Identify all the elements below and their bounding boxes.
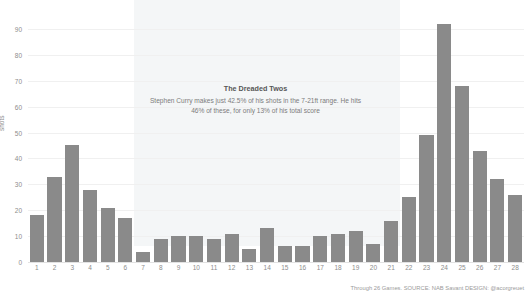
- bar[interactable]: [83, 190, 97, 263]
- y-tick-30: 30: [15, 181, 22, 188]
- gridline-0: [28, 262, 524, 263]
- bar[interactable]: [384, 221, 398, 262]
- x-tick-17: 17: [311, 264, 329, 271]
- bar-slot: [418, 16, 436, 262]
- bar-slot: [311, 16, 329, 262]
- bar[interactable]: [47, 177, 61, 262]
- y-axis-tick-labels: 0102030405060708090: [0, 16, 24, 262]
- x-tick-14: 14: [258, 264, 276, 271]
- bar-slot: [117, 16, 135, 262]
- bar[interactable]: [331, 234, 345, 262]
- y-tick-10: 10: [15, 233, 22, 240]
- bar-slot: [205, 16, 223, 262]
- x-tick-6: 6: [117, 264, 135, 271]
- x-tick-23: 23: [418, 264, 436, 271]
- x-tick-24: 24: [435, 264, 453, 271]
- x-tick-26: 26: [471, 264, 489, 271]
- x-tick-9: 9: [170, 264, 188, 271]
- bar[interactable]: [242, 249, 256, 262]
- bar[interactable]: [30, 215, 44, 262]
- chart-footer: Through 26 Games. SOURCE: NAB Savant DES…: [351, 285, 524, 291]
- bar[interactable]: [101, 208, 115, 262]
- x-tick-27: 27: [489, 264, 507, 271]
- y-tick-20: 20: [15, 207, 22, 214]
- y-tick-90: 90: [15, 25, 22, 32]
- bar-slot: [223, 16, 241, 262]
- annotation-title: The Dreaded Twos: [133, 84, 378, 93]
- bar-slot: [134, 16, 152, 262]
- x-tick-13: 13: [241, 264, 259, 271]
- y-tick-70: 70: [15, 77, 22, 84]
- bar-slot: [329, 16, 347, 262]
- bar-slot: [46, 16, 64, 262]
- plot-area: [28, 16, 524, 262]
- bar[interactable]: [118, 218, 132, 262]
- bar-slot: [400, 16, 418, 262]
- bar-slot: [471, 16, 489, 262]
- bar-slot: [506, 16, 524, 262]
- bar-slot: [63, 16, 81, 262]
- x-tick-2: 2: [46, 264, 64, 271]
- bar[interactable]: [402, 197, 416, 262]
- x-tick-5: 5: [99, 264, 117, 271]
- bar[interactable]: [508, 195, 522, 262]
- x-tick-3: 3: [63, 264, 81, 271]
- bar-slot: [241, 16, 259, 262]
- bar[interactable]: [473, 151, 487, 262]
- x-tick-25: 25: [453, 264, 471, 271]
- bar[interactable]: [207, 239, 221, 262]
- bar[interactable]: [260, 228, 274, 262]
- x-tick-15: 15: [276, 264, 294, 271]
- bar-slot: [152, 16, 170, 262]
- x-tick-22: 22: [400, 264, 418, 271]
- x-tick-10: 10: [187, 264, 205, 271]
- x-tick-8: 8: [152, 264, 170, 271]
- bar[interactable]: [225, 234, 239, 262]
- bar-slot: [187, 16, 205, 262]
- bar[interactable]: [189, 236, 203, 262]
- bar-slot: [365, 16, 383, 262]
- bar-slot: [28, 16, 46, 262]
- y-tick-0: 0: [18, 259, 22, 266]
- chart-root: Shot Distance 0102030405060708090 shots …: [0, 0, 532, 295]
- bar-slot: [81, 16, 99, 262]
- x-tick-19: 19: [347, 264, 365, 271]
- y-tick-40: 40: [15, 155, 22, 162]
- bar[interactable]: [171, 236, 185, 262]
- x-tick-28: 28: [506, 264, 524, 271]
- bar-slot: [435, 16, 453, 262]
- y-axis-title: shots: [0, 115, 5, 131]
- x-axis-tick-labels: 1234567891011121314151617181920212223242…: [28, 264, 524, 276]
- bar-series: [28, 16, 524, 262]
- x-tick-16: 16: [294, 264, 312, 271]
- x-tick-11: 11: [205, 264, 223, 271]
- bar[interactable]: [366, 244, 380, 262]
- x-tick-7: 7: [134, 264, 152, 271]
- x-tick-20: 20: [365, 264, 383, 271]
- bar-slot: [382, 16, 400, 262]
- bar[interactable]: [313, 236, 327, 262]
- bar[interactable]: [65, 145, 79, 262]
- bar-slot: [453, 16, 471, 262]
- bar[interactable]: [349, 231, 363, 262]
- bar-slot: [294, 16, 312, 262]
- y-tick-50: 50: [15, 129, 22, 136]
- bar[interactable]: [295, 246, 309, 262]
- bar[interactable]: [136, 252, 150, 262]
- bar-slot: [170, 16, 188, 262]
- x-tick-4: 4: [81, 264, 99, 271]
- annotation-line-1: Stephen Curry makes just 42.5% of his sh…: [133, 96, 378, 106]
- annotation-line-2: 46% of these, for only 13% of his total …: [133, 106, 378, 116]
- bar[interactable]: [154, 239, 168, 262]
- bar-slot: [99, 16, 117, 262]
- y-tick-60: 60: [15, 103, 22, 110]
- bar[interactable]: [437, 24, 451, 262]
- bar-slot: [489, 16, 507, 262]
- bar[interactable]: [490, 179, 504, 262]
- y-tick-80: 80: [15, 51, 22, 58]
- x-tick-12: 12: [223, 264, 241, 271]
- bar[interactable]: [278, 246, 292, 262]
- bar-slot: [347, 16, 365, 262]
- bar[interactable]: [419, 135, 433, 262]
- bar[interactable]: [455, 86, 469, 262]
